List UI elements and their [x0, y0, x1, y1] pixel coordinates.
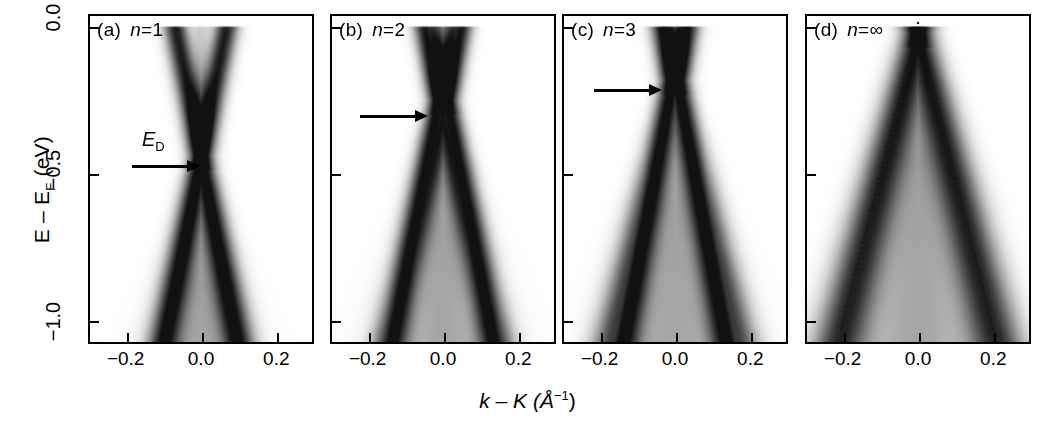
panel-c: (c)n=3 [562, 14, 788, 344]
x-tick-label: −0.2 [338, 348, 398, 370]
x-axis-title-main: k – K (Å [479, 389, 554, 412]
panel-d-tag: (d) [814, 19, 838, 40]
arrow-head [649, 84, 662, 96]
ed-arrow-a [132, 158, 200, 174]
panel-d-n-value: ∞ [869, 19, 883, 40]
x-tick-label: 0.2 [720, 348, 780, 370]
arrow-shaft [594, 89, 650, 92]
panel-d-label: (d)n=∞ [814, 19, 883, 41]
dirac-arrow-c [594, 82, 662, 98]
panel-c-n-value: 3 [625, 19, 636, 40]
x-axis-title-sup: −1 [554, 388, 569, 403]
x-tick-mark [127, 333, 129, 342]
x-tick-mark [202, 333, 204, 342]
x-tick-label: 0.0 [171, 348, 231, 370]
panel-d-eq: = [858, 19, 869, 40]
panel-c-eq: = [614, 19, 625, 40]
arrow-shaft [360, 115, 416, 118]
ed-annotation-text: E [142, 128, 155, 150]
panel-d: (d)n=∞ [805, 14, 1031, 344]
y-tick-label-1: −0.5 [42, 130, 65, 210]
x-tick-mark [369, 333, 371, 342]
panel-b: (b)n=2 [330, 14, 556, 344]
panel-b-n: n [372, 19, 383, 40]
arrow-shaft [132, 165, 188, 168]
panel-a-tag: (a) [97, 19, 121, 40]
dirac-arrow-b [360, 108, 428, 124]
y-tick-label-0: 0.0 [42, 0, 65, 58]
y-tick-mark [564, 321, 573, 323]
spectrum-image-b [332, 16, 554, 342]
panel-b-label: (b)n=2 [339, 19, 405, 41]
panel-a-n-value: 1 [152, 19, 163, 40]
spectrum-image-c [564, 16, 786, 342]
x-axis-title-tail: ) [569, 389, 576, 412]
x-tick-label: −0.2 [813, 348, 873, 370]
panel-c-label: (c)n=3 [571, 19, 636, 41]
panel-a: (a)n=1 ED [88, 14, 314, 344]
x-tick-label: −0.2 [96, 348, 156, 370]
panel-c-tag: (c) [571, 19, 594, 40]
arrow-head [415, 110, 428, 122]
panel-c-n: n [603, 19, 614, 40]
panel-b-tag: (b) [339, 19, 363, 40]
x-tick-mark [277, 333, 279, 342]
panel-a-eq: = [141, 19, 152, 40]
x-tick-label: −0.2 [570, 348, 630, 370]
y-tick-mark [90, 174, 99, 176]
x-tick-label: 0.2 [246, 348, 306, 370]
panel-a-n: n [130, 19, 141, 40]
arpes-figure: E – EF (eV) 0.0 −0.5 −1.0 k – K (Å−1) (a… [0, 0, 1055, 431]
y-tick-mark [807, 174, 816, 176]
x-tick-label: 0.0 [413, 348, 473, 370]
y-tick-mark [90, 321, 99, 323]
x-tick-mark [676, 333, 678, 342]
panel-a-label: (a)n=1 [97, 19, 163, 41]
y-tick-mark [332, 321, 341, 323]
arrow-head [187, 160, 200, 172]
x-tick-mark [751, 333, 753, 342]
panel-b-eq: = [383, 19, 394, 40]
panel-b-n-value: 2 [394, 19, 405, 40]
x-tick-label: 0.2 [488, 348, 548, 370]
x-tick-mark [994, 333, 996, 342]
x-axis-title: k – K (Å−1) [0, 388, 1055, 413]
x-tick-mark [601, 333, 603, 342]
x-tick-label: 0.0 [645, 348, 705, 370]
ed-annotation-sub: D [155, 139, 164, 154]
y-tick-label-2: −1.0 [42, 282, 65, 362]
x-tick-mark [444, 333, 446, 342]
y-tick-mark [332, 174, 341, 176]
spectrum-image-d [807, 16, 1029, 342]
x-tick-mark [519, 333, 521, 342]
x-tick-mark [844, 333, 846, 342]
x-tick-label: 0.2 [963, 348, 1023, 370]
y-tick-mark [807, 321, 816, 323]
spectrum-image-a [90, 16, 312, 342]
ed-annotation-label: ED [142, 128, 165, 154]
panel-d-n: n [847, 19, 858, 40]
x-tick-label: 0.0 [888, 348, 948, 370]
x-tick-mark [919, 333, 921, 342]
y-tick-mark [564, 174, 573, 176]
